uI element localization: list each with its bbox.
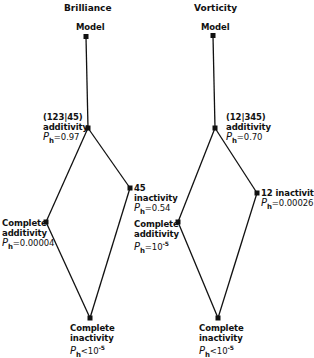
node-marker (84, 34, 89, 39)
p-symbol: Ph (43, 131, 54, 142)
panel-title-vorticity: Vorticity (194, 3, 237, 13)
node-partial-additivity: (123|45) additivity Ph=0.97 (43, 112, 88, 146)
node-complete-inactivity: Complete inactivity Ph<10-5 (199, 323, 244, 358)
node-complete-inactivity: Complete inactivity Ph<10-5 (70, 323, 115, 358)
node-partial-inactivity: 45 inactivity Ph=0.54 (134, 183, 178, 217)
node-marker (213, 126, 218, 131)
node-model-label: Model (201, 22, 230, 32)
node-marker (128, 186, 133, 191)
node-marker (216, 316, 221, 321)
node-complete-additivity: Complete additivity Ph=0.00004 (2, 218, 54, 252)
panel-title-brilliance: Brilliance (64, 3, 112, 13)
node-marker (255, 191, 260, 196)
node-complete-additivity: Complete additivity Ph=10-5 (134, 219, 179, 256)
node-marker (211, 33, 216, 38)
node-partial-additivity: (12|345) additivity Ph=0.70 (226, 112, 271, 146)
diagram-edges (0, 0, 314, 358)
node-marker (88, 316, 93, 321)
node-model-label: Model (76, 22, 105, 32)
node-partial-inactivity: 12 inactivity Ph=0.00026 (261, 188, 314, 212)
